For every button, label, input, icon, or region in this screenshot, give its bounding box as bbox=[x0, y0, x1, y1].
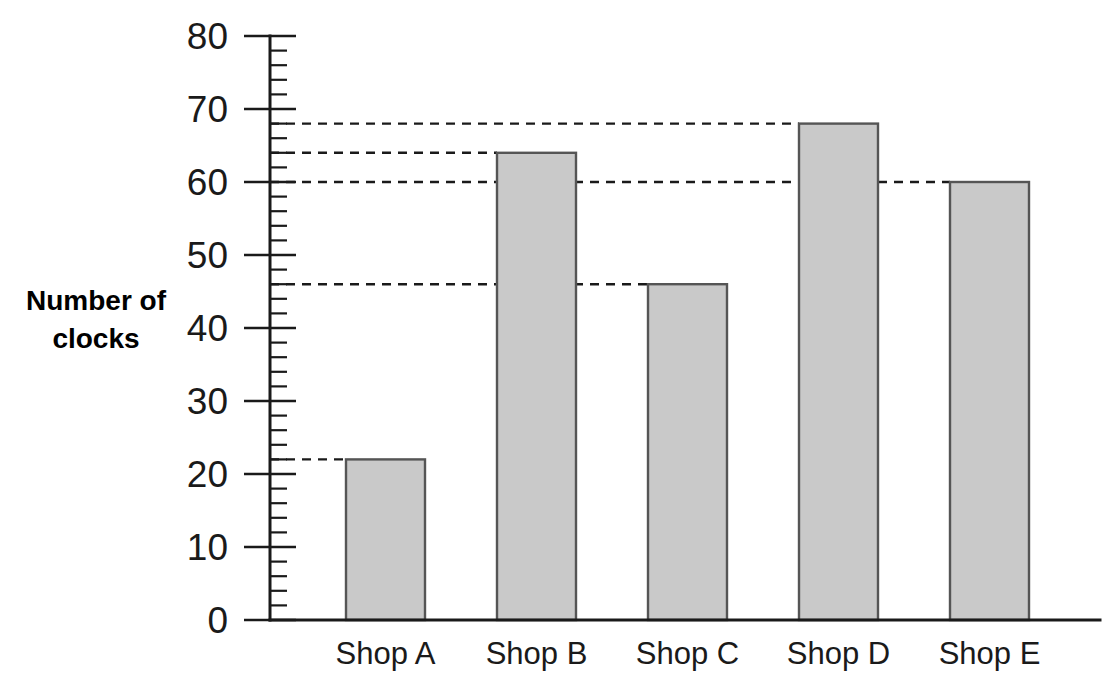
y-tick-label: 80 bbox=[187, 16, 228, 57]
y-tick-label: 30 bbox=[187, 381, 228, 422]
bar-chart-figure: 01020304050607080 Shop AShop BShop CShop… bbox=[0, 0, 1114, 681]
chart-canvas: 01020304050607080 Shop AShop BShop CShop… bbox=[0, 0, 1114, 681]
bars-group bbox=[346, 124, 1029, 620]
y-tick-label: 20 bbox=[187, 454, 228, 495]
bar-shop-d[interactable] bbox=[799, 124, 878, 620]
y-tick-label: 60 bbox=[187, 162, 228, 203]
x-tick-label-shop-a: Shop A bbox=[336, 636, 436, 671]
x-tick-labels-group: Shop AShop BShop CShop DShop E bbox=[336, 636, 1041, 671]
y-axis-title: Number of clocks bbox=[26, 285, 167, 354]
x-tick-label-shop-e: Shop E bbox=[939, 636, 1041, 671]
y-tick-labels-group: 01020304050607080 bbox=[187, 16, 228, 641]
y-tick-label: 50 bbox=[187, 235, 228, 276]
y-tick-label: 0 bbox=[207, 600, 228, 641]
y-tick-label: 10 bbox=[187, 527, 228, 568]
bar-shop-c[interactable] bbox=[648, 284, 727, 620]
x-tick-label-shop-c: Shop C bbox=[636, 636, 739, 671]
bar-shop-e[interactable] bbox=[950, 182, 1029, 620]
y-tick-label: 70 bbox=[187, 89, 228, 130]
y-tick-label: 40 bbox=[187, 308, 228, 349]
bar-shop-a[interactable] bbox=[346, 459, 425, 620]
x-tick-label-shop-b: Shop B bbox=[486, 636, 588, 671]
y-axis-title-line2: clocks bbox=[52, 323, 139, 354]
y-axis-title-line1: Number of bbox=[26, 285, 167, 316]
bar-shop-b[interactable] bbox=[497, 153, 576, 620]
x-tick-label-shop-d: Shop D bbox=[787, 636, 890, 671]
